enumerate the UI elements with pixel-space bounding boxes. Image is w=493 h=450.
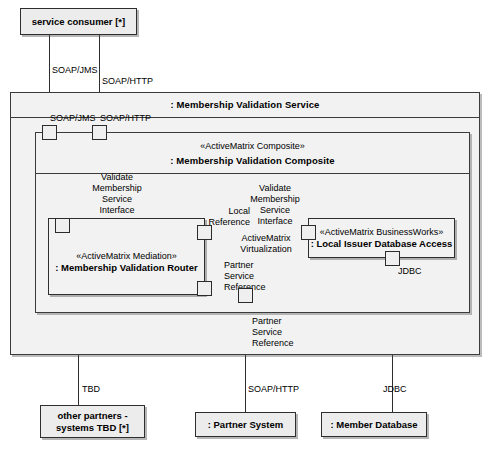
node-partner-system[interactable]: : Partner System (195, 412, 296, 437)
businessworks-label: : Local Issuer Database Access (311, 238, 453, 250)
composite-title: : Membership Validation Composite (36, 155, 469, 166)
port-router-validate-membership-service-interface[interactable] (55, 218, 70, 233)
businessworks-stereotype: «ActiveMatrix BusinessWorks» (320, 226, 443, 238)
label-soap-jms-inner: SOAP/JMS (50, 113, 96, 124)
composite-stereotype: «ActiveMatrix Composite» (36, 141, 469, 151)
member-database-label: : Member Database (330, 419, 417, 431)
label-jdbc-outer: JDBC (383, 384, 407, 395)
router-label: : Membership Validation Router (55, 262, 198, 274)
label-partner-service-reference-outer: Partner Service Reference (252, 316, 312, 349)
node-local-issuer-database-access[interactable]: «ActiveMatrix BusinessWorks» : Local Iss… (308, 218, 455, 258)
label-validate-membership-service-interface-left: Validate Membership Service Interface (78, 172, 156, 216)
router-stereotype: «ActiveMatrix Mediation» (76, 250, 177, 262)
label-partner-service-reference-inner: Partner Service Reference (224, 260, 284, 293)
label-soap-jms-outer: SOAP/JMS (52, 65, 98, 76)
label-jdbc-inner: JDBC (398, 266, 422, 277)
other-partners-line2: systems TBD [*] (56, 422, 129, 434)
node-other-partners[interactable]: other partners - systems TBD [*] (40, 405, 145, 438)
diagram-canvas: service consumer [*] : Membership Valida… (0, 0, 493, 450)
port-businessworks-jdbc[interactable] (385, 251, 400, 266)
port-composite-soap-http[interactable] (92, 125, 107, 140)
node-service-consumer[interactable]: service consumer [*] (20, 8, 137, 35)
port-businessworks-validate-membership-service-interface[interactable] (301, 225, 316, 240)
node-membership-validation-router[interactable]: «ActiveMatrix Mediation» : Membership Va… (48, 218, 205, 295)
label-soap-http-inner: SOAP/HTTP (100, 113, 151, 124)
label-tbd: TBD (82, 384, 100, 395)
other-partners-line1: other partners - (57, 410, 127, 422)
label-activematrix-virtualization: ActiveMatrix Virtualization (228, 233, 304, 255)
port-router-local-reference[interactable] (197, 225, 212, 240)
port-composite-soap-jms[interactable] (42, 125, 57, 140)
label-soap-http-partner: SOAP/HTTP (248, 384, 299, 395)
node-member-database[interactable]: : Member Database (321, 412, 427, 437)
port-router-partner-service-reference[interactable] (197, 281, 212, 296)
service-consumer-label: service consumer [*] (32, 16, 125, 28)
partner-system-label: : Partner System (208, 419, 284, 431)
membership-validation-service-title: : Membership Validation Service (11, 99, 479, 110)
label-soap-http-outer: SOAP/HTTP (102, 76, 153, 87)
port-composite-partner-service-reference[interactable] (238, 288, 253, 303)
